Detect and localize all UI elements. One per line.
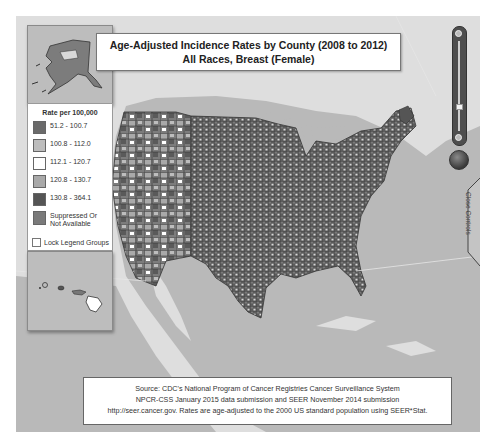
- source-caption: Source: CDC's National Program of Cancer…: [83, 377, 452, 425]
- map-canvas[interactable]: Rate per 100,000 51.2 - 100.7 100.8 - 11…: [16, 16, 480, 432]
- map-title: Age-Adjusted Incidence Rates by County (…: [96, 33, 401, 71]
- source-line-2: NPCR-CSS January 2015 data submission an…: [84, 394, 451, 405]
- legend-swatch: [33, 175, 46, 188]
- legend-swatch: [33, 193, 46, 206]
- legend-item[interactable]: 51.2 - 100.7: [33, 121, 112, 134]
- title-line-2: All Races, Breast (Female): [97, 52, 400, 66]
- zoom-slider[interactable]: [452, 26, 467, 146]
- lock-legend-label: Lock Legend Groups: [44, 239, 109, 246]
- source-line-1: Source: CDC's National Program of Cancer…: [84, 383, 451, 394]
- legend-swatch: [33, 121, 46, 134]
- legend-item[interactable]: 120.8 - 130.7: [33, 175, 112, 188]
- legend-label: 51.2 - 100.7: [50, 121, 87, 130]
- legend-label: 130.8 - 364.1: [50, 193, 91, 202]
- legend-item[interactable]: 130.8 - 364.1: [33, 193, 112, 206]
- legend-label: 120.8 - 130.7: [50, 175, 91, 184]
- zoom-track[interactable]: [458, 41, 460, 131]
- legend-title: Rate per 100,000: [28, 109, 112, 116]
- lock-legend-checkbox[interactable]: [32, 238, 41, 247]
- source-line-3: http://seer.cancer.gov. Rates are age-ad…: [84, 405, 451, 416]
- close-controls-tab[interactable]: Close Controls: [462, 178, 480, 266]
- legend-swatch: [33, 211, 46, 225]
- zoom-thumb[interactable]: [456, 104, 463, 110]
- hawaii-inset[interactable]: [27, 251, 113, 331]
- legend-label: 100.8 - 112.0: [50, 139, 91, 148]
- close-controls-label: Close Controls: [465, 192, 472, 235]
- zoom-in-icon[interactable]: [455, 30, 462, 37]
- legend-item[interactable]: 112.1 - 120.7: [33, 157, 112, 170]
- lock-legend-groups[interactable]: Lock Legend Groups: [32, 238, 109, 247]
- legend-swatch: [33, 139, 46, 152]
- legend-item[interactable]: Suppressed Or Not Available: [33, 211, 112, 228]
- legend-swatch: [33, 157, 46, 170]
- hawaii-shape: [28, 252, 112, 330]
- legend-label: 112.1 - 120.7: [50, 157, 91, 166]
- legend-label: Suppressed Or: [50, 212, 97, 220]
- zoom-out-icon[interactable]: [455, 134, 462, 141]
- legend-panel: Rate per 100,000 51.2 - 100.7 100.8 - 11…: [27, 103, 113, 251]
- title-line-1: Age-Adjusted Incidence Rates by County (…: [97, 38, 400, 52]
- globe-icon[interactable]: [449, 150, 469, 170]
- legend-label: Not Available: [50, 220, 97, 228]
- legend-item[interactable]: 100.8 - 112.0: [33, 139, 112, 152]
